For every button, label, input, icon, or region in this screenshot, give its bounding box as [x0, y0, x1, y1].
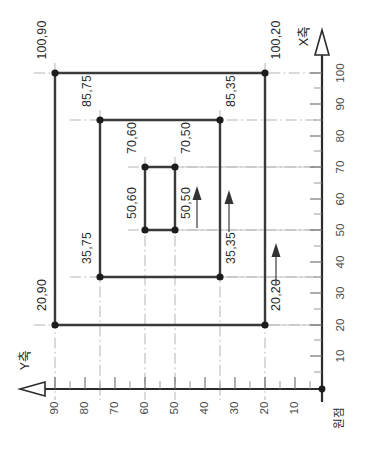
- outer-label-100-90: 100,90: [35, 20, 49, 59]
- x-axis-arrowhead: [315, 30, 329, 55]
- inner-node-50-60: [141, 226, 148, 233]
- x-tick-label-90: 90: [333, 98, 346, 111]
- y-axis-group: 90 80 70 60 50 40 30 20 10 Y축: [18, 350, 322, 415]
- x-tick-label-100: 100: [333, 63, 346, 82]
- inner-profile-path: [145, 167, 175, 230]
- middle-node-35-75: [96, 273, 103, 280]
- middle-profile-path: [100, 120, 220, 277]
- origin-point: [319, 386, 326, 393]
- y-tick-label-10: 10: [287, 402, 300, 415]
- y-tick-label-70: 70: [107, 402, 120, 415]
- inner-node-50-50: [171, 226, 178, 233]
- inner-node-70-60: [141, 163, 148, 170]
- x-tick-label-40: 40: [333, 256, 346, 269]
- direction-arrow-middle: [225, 190, 234, 232]
- origin-label: 원점: [332, 407, 345, 429]
- origin-group: 원점: [319, 386, 345, 429]
- middle-profile-group: 85,75 85,35 35,75 35,35: [80, 75, 238, 281]
- x-tick-label-20: 20: [333, 319, 346, 332]
- outer-label-100-20: 100,20: [269, 20, 283, 59]
- y-tick-label-80: 80: [77, 402, 90, 415]
- y-axis-label: Y축: [18, 350, 32, 370]
- y-tick-label-20: 20: [257, 402, 270, 415]
- middle-node-85-35: [216, 116, 223, 123]
- y-tick-label-40: 40: [197, 402, 210, 415]
- middle-label-35-35: 35,35: [224, 232, 238, 264]
- diagram-canvas: 100 90 80 70 60 50 40 30 20 10 X축: [0, 0, 373, 451]
- x-tick-label-10: 10: [333, 350, 346, 363]
- x-tick-label-50: 50: [333, 224, 346, 237]
- direction-arrow-inner: [193, 186, 202, 228]
- inner-label-70-60: 70,60: [125, 122, 139, 154]
- y-tick-label-90: 90: [47, 402, 60, 415]
- inner-node-70-50: [171, 163, 178, 170]
- middle-label-85-75: 85,75: [80, 75, 94, 107]
- inner-label-70-50: 70,50: [179, 122, 193, 154]
- outer-node-20-90: [51, 321, 58, 328]
- y-tick-label-30: 30: [227, 402, 240, 415]
- inner-label-50-50: 50,50: [179, 187, 193, 219]
- outer-profile-path: [55, 73, 265, 325]
- direction-arrow-outer: [272, 243, 281, 285]
- y-tick-label-50: 50: [167, 402, 180, 415]
- outer-node-20-20: [261, 321, 268, 328]
- x-tick-label-80: 80: [333, 130, 346, 143]
- middle-node-35-35: [216, 273, 223, 280]
- outer-profile-group: 100,90 100,20 20,90 20,20: [35, 20, 283, 328]
- inner-profile-group: 70,60 70,50 50,60 50,50: [125, 122, 193, 234]
- outer-node-100-20: [261, 69, 268, 76]
- middle-label-85-35: 85,35: [224, 75, 238, 107]
- direction-arrow-outer-head: [272, 243, 281, 257]
- middle-node-85-75: [96, 116, 103, 123]
- x-tick-label-70: 70: [333, 161, 346, 174]
- middle-label-35-75: 35,75: [80, 232, 94, 264]
- cad-coordinate-diagram: 100 90 80 70 60 50 40 30 20 10 X축: [0, 0, 373, 451]
- x-tick-label-30: 30: [333, 287, 346, 300]
- x-tick-label-60: 60: [333, 193, 346, 206]
- y-axis-arrowhead: [20, 382, 45, 396]
- y-tick-label-60: 60: [137, 402, 150, 415]
- outer-label-20-90: 20,90: [35, 279, 49, 311]
- inner-label-50-60: 50,60: [125, 187, 139, 219]
- direction-arrow-middle-head: [225, 190, 234, 204]
- outer-node-100-90: [51, 69, 58, 76]
- x-axis-label: X축: [297, 26, 311, 46]
- x-axis-group: 100 90 80 70 60 50 40 30 20 10 X축: [297, 26, 346, 402]
- direction-arrow-inner-head: [193, 186, 202, 200]
